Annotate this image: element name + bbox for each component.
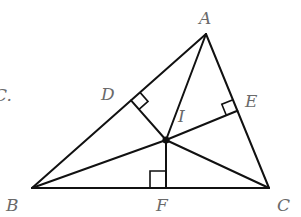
label-f: F [155,195,169,215]
segment-ie [166,111,237,140]
segment-bi [32,140,166,188]
label-i: I [177,106,185,126]
segment-id [131,100,166,140]
segment-ci [166,140,269,188]
label-a: A [197,8,211,28]
segment-ai [166,34,206,140]
clipped-text-fragment: C. [0,85,12,105]
right-angle-mark-f [150,171,166,188]
incenter-point [162,136,169,143]
label-b: B [5,195,19,215]
label-d: D [100,84,115,104]
right-angle-mark-d [139,92,148,109]
label-e: E [244,91,258,111]
label-c: C [277,195,290,215]
triangle-diagram: A B C D E F I C. [0,0,301,217]
